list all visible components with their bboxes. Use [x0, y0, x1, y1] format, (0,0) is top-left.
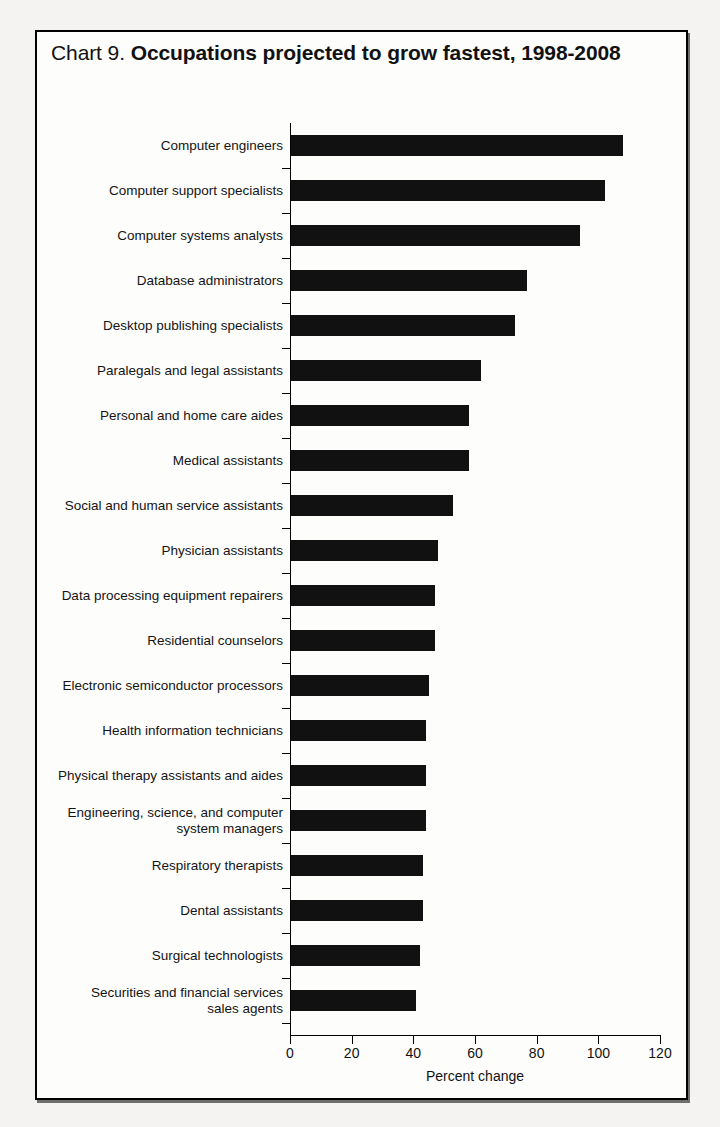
category-label: Computer support specialists	[37, 183, 290, 199]
bar	[290, 270, 527, 291]
category-label: Paralegals and legal assistants	[37, 363, 290, 379]
bar	[290, 135, 623, 156]
x-tick-label: 80	[529, 1045, 545, 1061]
bar-row: Paralegals and legal assistants	[37, 348, 690, 393]
bar-row: Engineering, science, and computer syste…	[37, 798, 690, 843]
x-tick-label: 100	[587, 1045, 610, 1061]
bar	[290, 450, 469, 471]
bar	[290, 765, 426, 786]
category-label: Physician assistants	[37, 543, 290, 559]
category-label: Engineering, science, and computer syste…	[37, 805, 290, 836]
category-label: Desktop publishing specialists	[37, 318, 290, 334]
bar-row: Dental assistants	[37, 888, 690, 933]
bar-row: Surgical technologists	[37, 933, 690, 978]
x-tick-label: 60	[467, 1045, 483, 1061]
bar-track	[290, 258, 690, 303]
bar-row: Database administrators	[37, 258, 690, 303]
bar	[290, 990, 416, 1011]
category-label: Database administrators	[37, 273, 290, 289]
x-tick	[413, 1035, 414, 1044]
y-axis-line	[290, 123, 291, 1035]
category-label: Dental assistants	[37, 903, 290, 919]
category-label: Medical assistants	[37, 453, 290, 469]
bar-track	[290, 618, 690, 663]
x-tick-label: 40	[406, 1045, 422, 1061]
x-tick-label: 0	[286, 1045, 294, 1061]
bar-row: Electronic semiconductor processors	[37, 663, 690, 708]
bar-track	[290, 753, 690, 798]
bar	[290, 855, 423, 876]
category-label: Health information technicians	[37, 723, 290, 739]
x-tick	[537, 1035, 538, 1044]
x-tick-label: 20	[344, 1045, 360, 1061]
bar-track	[290, 978, 690, 1023]
bar-row: Residential counselors	[37, 618, 690, 663]
x-tick	[290, 1035, 291, 1044]
bar-row: Health information technicians	[37, 708, 690, 753]
bar-track	[290, 888, 690, 933]
bar-track	[290, 573, 690, 618]
bar	[290, 720, 426, 741]
bar	[290, 180, 605, 201]
bar	[290, 900, 423, 921]
bar-track	[290, 933, 690, 978]
bar-track	[290, 213, 690, 258]
category-label: Securities and financial services sales …	[37, 985, 290, 1016]
category-label: Personal and home care aides	[37, 408, 290, 424]
bar-row: Computer support specialists	[37, 168, 690, 213]
bar-track	[290, 798, 690, 843]
bar-rows: Computer engineersComputer support speci…	[37, 123, 690, 1023]
bar-row: Desktop publishing specialists	[37, 303, 690, 348]
bar-row: Data processing equipment repairers	[37, 573, 690, 618]
category-label: Electronic semiconductor processors	[37, 678, 290, 694]
bar-row: Securities and financial services sales …	[37, 978, 690, 1023]
bar-track	[290, 528, 690, 573]
bar	[290, 495, 453, 516]
x-tick-label: 120	[648, 1045, 671, 1061]
x-tick	[475, 1035, 476, 1044]
bar-track	[290, 708, 690, 753]
category-label: Residential counselors	[37, 633, 290, 649]
bar-track	[290, 483, 690, 528]
bar-row: Personal and home care aides	[37, 393, 690, 438]
bar-track	[290, 393, 690, 438]
bar-track	[290, 438, 690, 483]
bar-row: Respiratory therapists	[37, 843, 690, 888]
bar	[290, 630, 435, 651]
category-label: Respiratory therapists	[37, 858, 290, 874]
category-label: Physical therapy assistants and aides	[37, 768, 290, 784]
bar	[290, 675, 429, 696]
bar-track	[290, 843, 690, 888]
category-label: Social and human service assistants	[37, 498, 290, 514]
bar	[290, 810, 426, 831]
plot-area: Computer engineersComputer support speci…	[37, 32, 690, 1102]
bar-row: Medical assistants	[37, 438, 690, 483]
bar-track	[290, 123, 690, 168]
bar-row: Physical therapy assistants and aides	[37, 753, 690, 798]
bar	[290, 315, 515, 336]
bar	[290, 405, 469, 426]
bar-row: Social and human service assistants	[37, 483, 690, 528]
bar	[290, 585, 435, 606]
bar	[290, 225, 580, 246]
x-tick	[660, 1035, 661, 1044]
bar-track	[290, 348, 690, 393]
bar-row: Computer engineers	[37, 123, 690, 168]
bar	[290, 540, 438, 561]
chart-figure: Chart 9. Occupations projected to grow f…	[35, 30, 688, 1100]
bar	[290, 360, 481, 381]
x-tick	[352, 1035, 353, 1044]
bar-track	[290, 663, 690, 708]
bar-row: Computer systems analysts	[37, 213, 690, 258]
category-label: Computer systems analysts	[37, 228, 290, 244]
bar-track	[290, 168, 690, 213]
x-tick	[598, 1035, 599, 1044]
bar-row: Physician assistants	[37, 528, 690, 573]
category-label: Data processing equipment repairers	[37, 588, 290, 604]
category-label: Computer engineers	[37, 138, 290, 154]
x-axis-title: Percent change	[290, 1068, 660, 1084]
bar-track	[290, 303, 690, 348]
category-label: Surgical technologists	[37, 948, 290, 964]
bar	[290, 945, 420, 966]
